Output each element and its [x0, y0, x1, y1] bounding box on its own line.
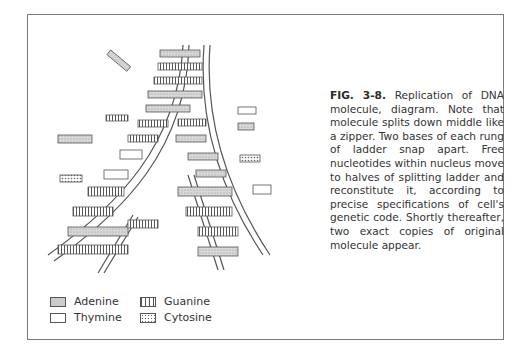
figure-label: FIG. 3-8.	[330, 89, 386, 101]
caption-text: Replication of DNA molecule, diagram. No…	[330, 89, 504, 251]
legend-item-thymine: Thymine	[50, 311, 122, 324]
dna-replication-diagram	[28, 15, 328, 275]
legend-item-adenine: Adenine	[50, 295, 119, 308]
legend-item-cytosine: Cytosine	[140, 311, 212, 324]
dot-swatch-icon	[140, 313, 156, 323]
blank-swatch-icon	[50, 313, 66, 323]
stipple-swatch-icon	[50, 297, 66, 307]
stripe-swatch-icon	[140, 297, 156, 307]
figure-caption: FIG. 3-8. Replication of DNA molecule, d…	[330, 89, 504, 252]
legend-item-guanine: Guanine	[140, 295, 210, 308]
